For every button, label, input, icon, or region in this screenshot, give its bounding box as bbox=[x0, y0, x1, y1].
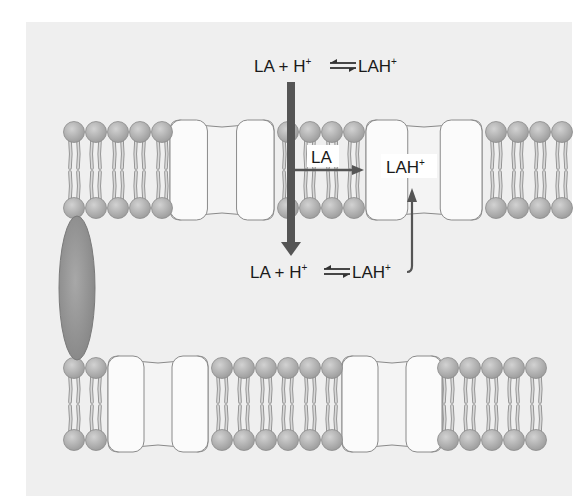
ion-channel-icon bbox=[170, 120, 274, 220]
equation-rhs: LAH bbox=[358, 57, 391, 76]
lah-sup: + bbox=[419, 157, 425, 168]
membrane-la-label: LA bbox=[311, 148, 332, 167]
svg-text:LA + H+: LA + H+ bbox=[254, 56, 312, 76]
equation-lhs: LA + H bbox=[250, 263, 302, 282]
svg-text:LA + H+: LA + H+ bbox=[250, 262, 308, 282]
equation-sup: + bbox=[385, 262, 391, 273]
equation-sup: + bbox=[302, 262, 308, 273]
equation-lhs: LA + H bbox=[254, 57, 306, 76]
membrane-protein-icon bbox=[59, 216, 95, 360]
equation-sup: + bbox=[306, 56, 312, 67]
equation-rhs: LAH bbox=[352, 263, 385, 282]
lah-text: LAH bbox=[386, 158, 419, 177]
ion-channel-icon bbox=[108, 356, 208, 452]
equation-sup: + bbox=[391, 56, 397, 67]
membrane-diagram: LA + H+ LAH+ LA + H+ LAH+ LA LAH+ bbox=[0, 0, 588, 504]
ion-channel-icon bbox=[342, 356, 442, 452]
